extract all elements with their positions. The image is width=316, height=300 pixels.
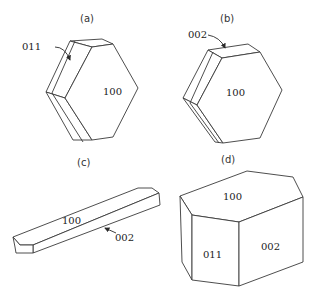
crystal-morphology-diagram: (a) 100 011 (b) 100 002 (c) 100 002 (d) <box>0 0 316 300</box>
face-label-b-002: 002 <box>188 29 207 40</box>
face-label-a-100: 100 <box>103 86 122 97</box>
face-label-b-100: 100 <box>226 87 245 98</box>
caption-a: (a) <box>80 13 94 24</box>
panel-a: (a) 100 011 <box>22 13 138 142</box>
lath-c-top-face <box>13 188 159 245</box>
pointer-arrow-icon <box>208 35 225 48</box>
face-label-c-002: 002 <box>115 232 134 243</box>
panel-b: (b) 100 002 <box>183 13 282 143</box>
panel-d: (d) 100 011 002 <box>180 154 303 286</box>
face-label-a-011: 011 <box>22 41 41 52</box>
pointer-arrow-icon <box>105 228 116 233</box>
face-label-d-002: 002 <box>261 241 280 252</box>
caption-b: (b) <box>220 13 234 24</box>
face-label-d-100: 100 <box>223 191 242 202</box>
face-label-d-011: 011 <box>203 249 222 260</box>
caption-d: (d) <box>221 154 235 165</box>
face-label-c-100: 100 <box>62 215 81 226</box>
panel-c: (c) 100 002 <box>13 157 160 253</box>
caption-c: (c) <box>77 157 90 168</box>
